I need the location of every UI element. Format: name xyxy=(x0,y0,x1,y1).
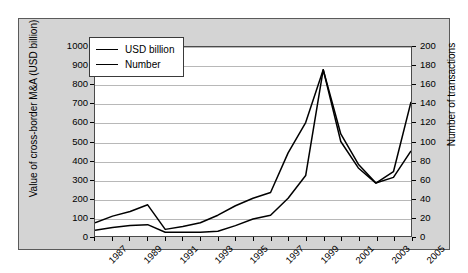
x-axis-tick-mark xyxy=(235,237,236,241)
legend-label: Number xyxy=(125,59,161,70)
y-axis-left-tick-label: 600 xyxy=(52,117,88,127)
x-axis-tick-mark xyxy=(412,237,413,241)
x-axis-tick-mark xyxy=(253,237,254,241)
x-axis-tick-mark xyxy=(324,237,325,241)
y-axis-right-tick-label: 80 xyxy=(420,156,456,166)
y-axis-left-tick-label: 0 xyxy=(52,232,88,242)
x-axis-tick-label: 2001 xyxy=(354,243,377,266)
x-axis-tick-mark xyxy=(359,237,360,241)
y-axis-right-tick-mark xyxy=(412,180,416,181)
y-axis-left-tick-label: 100 xyxy=(52,213,88,223)
y-axis-left-tick-label: 200 xyxy=(52,194,88,204)
x-axis-tick-mark xyxy=(306,237,307,241)
chart-figure: Value of cross-border M&A (USD billion) … xyxy=(0,0,468,273)
x-axis-tick-label: 1995 xyxy=(248,243,271,266)
y-axis-left-tick-label: 400 xyxy=(52,156,88,166)
x-axis-tick-label: 1997 xyxy=(283,243,306,266)
legend-label: USD billion xyxy=(125,44,174,55)
x-axis-tick-mark xyxy=(94,237,95,241)
x-axis-tick-mark xyxy=(129,237,130,241)
chart-frame: Value of cross-border M&A (USD billion) … xyxy=(18,18,450,250)
y-axis-right-tick-label: 60 xyxy=(420,175,456,185)
line-number xyxy=(95,70,411,233)
x-axis-tick-label: 1993 xyxy=(212,243,235,266)
x-axis-tick-label: 1999 xyxy=(318,243,341,266)
y-axis-right-tick-label: 0 xyxy=(420,232,456,242)
x-axis-tick-mark xyxy=(112,237,113,241)
x-axis-tick-mark xyxy=(271,237,272,241)
y-axis-right-tick-label: 120 xyxy=(420,117,456,127)
y-axis-left-tick-label: 800 xyxy=(52,79,88,89)
x-axis-tick-label: 2003 xyxy=(389,243,412,266)
line-usd-billion xyxy=(95,70,411,230)
y-axis-left-tick-label: 500 xyxy=(52,137,88,147)
y-axis-right-tick-mark xyxy=(412,84,416,85)
y-axis-right-tick-mark xyxy=(412,218,416,219)
y-axis-right-tick-mark xyxy=(412,122,416,123)
x-axis-tick-label: 1989 xyxy=(142,243,165,266)
x-axis-tick-mark xyxy=(147,237,148,241)
chart-legend: USD billion Number xyxy=(89,37,184,77)
y-axis-right-tick-mark xyxy=(412,161,416,162)
x-axis-tick-mark xyxy=(341,237,342,241)
y-axis-right-tick-mark xyxy=(412,103,416,104)
x-axis-tick-mark xyxy=(165,237,166,241)
y-axis-right-tick-mark xyxy=(412,46,416,47)
x-axis-tick-mark xyxy=(394,237,395,241)
y-axis-right-tick-mark xyxy=(412,199,416,200)
legend-line-icon xyxy=(96,64,118,65)
y-axis-right-tick-label: 100 xyxy=(420,137,456,147)
y-axis-left-tick-label: 300 xyxy=(52,175,88,185)
y-axis-right-tick-mark xyxy=(412,142,416,143)
x-axis-tick-label: 1987 xyxy=(106,243,129,266)
x-axis-tick-mark xyxy=(182,237,183,241)
y-axis-right-tick-label: 40 xyxy=(420,194,456,204)
x-axis-tick-mark xyxy=(218,237,219,241)
y-axis-left-tick-label: 1000 xyxy=(52,41,88,51)
y-axis-right-tick-label: 140 xyxy=(420,98,456,108)
x-axis-tick-label: 2005 xyxy=(424,243,447,266)
legend-item-usd-billion: USD billion xyxy=(96,42,174,57)
y-axis-right-tick-label: 160 xyxy=(420,79,456,89)
y-axis-right-tick-mark xyxy=(412,65,416,66)
y-axis-left-tick-label: 900 xyxy=(52,60,88,70)
x-axis-tick-label: 1991 xyxy=(177,243,200,266)
x-axis-tick-mark xyxy=(377,237,378,241)
y-axis-left-tick-label: 700 xyxy=(52,98,88,108)
legend-line-icon xyxy=(96,49,118,50)
legend-item-number: Number xyxy=(96,57,174,72)
y-axis-left-title: Value of cross-border M&A (USD billion) xyxy=(28,0,39,219)
y-axis-right-tick-label: 20 xyxy=(420,213,456,223)
y-axis-right-tick-label: 200 xyxy=(420,41,456,51)
x-axis-tick-mark xyxy=(200,237,201,241)
x-axis-tick-mark xyxy=(288,237,289,241)
y-axis-right-tick-label: 180 xyxy=(420,60,456,70)
